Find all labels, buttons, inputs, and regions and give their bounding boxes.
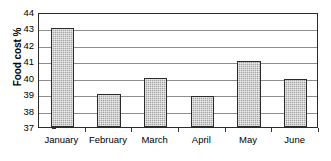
- x-axis-label: May: [225, 134, 272, 146]
- y-axis-tick-label: 38: [18, 107, 34, 116]
- bar: [237, 61, 260, 127]
- y-axis-tick-label: 43: [18, 24, 34, 33]
- bar: [144, 78, 167, 127]
- y-axis-tick-label: 37: [18, 123, 34, 132]
- bars-group: [39, 14, 317, 127]
- bar: [51, 28, 74, 127]
- y-axis-tick-labels: 4443424140393837: [18, 13, 34, 128]
- x-axis-label: January: [38, 134, 85, 146]
- bar: [191, 96, 214, 127]
- x-axis-tick-mark: [225, 128, 226, 132]
- x-axis-tick-mark: [178, 128, 179, 132]
- bar: [97, 94, 120, 127]
- x-axis-labels: JanuaryFebruaryMarchAprilMayJune: [38, 134, 318, 150]
- x-axis-tick-mark: [85, 128, 86, 132]
- x-axis-label: April: [178, 134, 225, 146]
- plot-area: [38, 13, 318, 128]
- y-axis-tick-label: 39: [18, 90, 34, 99]
- x-axis-tick-mark: [131, 128, 132, 132]
- x-axis-label: June: [271, 134, 318, 146]
- x-axis-tick-mark: [271, 128, 272, 132]
- y-axis-tick-label: 40: [18, 74, 34, 83]
- y-axis-tick-label: 42: [18, 41, 34, 50]
- bar: [284, 79, 307, 127]
- x-axis-ticks: [38, 128, 318, 133]
- bar-chart: Food cost % 4443424140393837 JanuaryFebr…: [0, 0, 331, 161]
- y-axis-tick-label: 41: [18, 57, 34, 66]
- y-axis-tick-label: 44: [18, 8, 34, 17]
- x-axis-tick-mark: [318, 128, 319, 132]
- x-axis-label: February: [85, 134, 132, 146]
- x-axis-label: March: [131, 134, 178, 146]
